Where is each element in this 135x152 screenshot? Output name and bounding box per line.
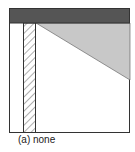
diagram-canvas	[0, 0, 135, 152]
top-bar	[10, 9, 130, 24]
figure-caption: (a) none	[18, 134, 55, 145]
hatched-column	[24, 23, 36, 133]
